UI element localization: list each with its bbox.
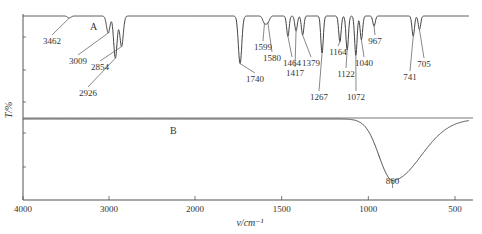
peak-label-3009: 3009 xyxy=(69,56,88,66)
y-axis-label: T/% xyxy=(3,102,14,119)
peak-leader-line xyxy=(78,33,108,55)
peak-label-967: 967 xyxy=(368,36,382,46)
x-axis-label: v/cm⁻¹ xyxy=(236,217,263,228)
axes-frame: 40003000200015001000500 xyxy=(14,14,473,214)
x-tick-label: 1000 xyxy=(359,204,378,214)
series-label-a: A xyxy=(90,21,98,32)
series-label-b: B xyxy=(170,125,177,136)
peak-label-741: 741 xyxy=(403,72,417,82)
x-tick-label: 500 xyxy=(448,204,462,214)
peak-leader-line xyxy=(303,35,311,57)
peak-label-2926: 2926 xyxy=(79,88,98,98)
peak-label-1464: 1464 xyxy=(283,58,302,68)
peak-annotations: 3462300929262854174015991580146414171379… xyxy=(43,18,431,188)
peak-leader-line xyxy=(288,36,292,57)
peak-leader-line xyxy=(361,40,364,57)
x-tick-label: 2000 xyxy=(186,204,205,214)
x-tick-label: 4000 xyxy=(14,204,33,214)
x-tick-label: 1500 xyxy=(273,204,292,214)
peak-label-1267: 1267 xyxy=(310,92,329,102)
peak-leader-line xyxy=(419,30,424,58)
peak-leader-line xyxy=(338,42,340,46)
peak-label-3462: 3462 xyxy=(43,36,61,46)
peak-label-705: 705 xyxy=(417,59,431,69)
peak-label-1164: 1164 xyxy=(329,47,347,57)
peak-label-1740: 1740 xyxy=(246,74,265,84)
peak-leader-line xyxy=(100,47,122,61)
peak-label-1599: 1599 xyxy=(254,42,273,52)
peak-leader-line xyxy=(263,23,265,41)
ir-spectrum-chart: 40003000200015001000500 3462300929262854… xyxy=(0,0,482,234)
peak-label-860: 860 xyxy=(386,176,400,186)
x-tick-label: 3000 xyxy=(100,204,119,214)
peak-label-1122: 1122 xyxy=(337,69,355,79)
peak-leader-line xyxy=(374,26,375,35)
spectrum-b-curve xyxy=(23,119,469,180)
peak-label-1072: 1072 xyxy=(347,92,365,102)
peak-label-2854: 2854 xyxy=(91,62,110,72)
peak-label-1040: 1040 xyxy=(355,58,374,68)
peak-leader-line xyxy=(240,64,255,73)
peak-label-1580: 1580 xyxy=(263,53,282,63)
peak-leader-line xyxy=(52,18,69,35)
peak-label-1417: 1417 xyxy=(286,68,305,78)
peak-leader-line xyxy=(410,36,413,71)
spectra-curves xyxy=(23,16,469,180)
peak-label-1379: 1379 xyxy=(302,58,321,68)
chart-canvas: 40003000200015001000500 3462300929262854… xyxy=(0,0,482,234)
